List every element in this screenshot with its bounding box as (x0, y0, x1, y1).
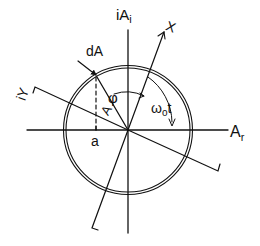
real-axis-label: Ar (230, 123, 245, 143)
phi-arc (114, 92, 144, 96)
dA-arrow (78, 61, 96, 75)
phi-label: φ (108, 89, 118, 106)
y-axis-label: iY (13, 85, 33, 103)
phasor-diagram: iAi Ar X iY dA A φ ωot a (0, 0, 260, 246)
omega-t-label: ωot (151, 100, 172, 118)
x-axis-label: X (164, 17, 179, 35)
imag-axis-label: iAi (116, 6, 132, 25)
dA-label: dA (86, 43, 104, 59)
projection-label: a (91, 133, 99, 149)
